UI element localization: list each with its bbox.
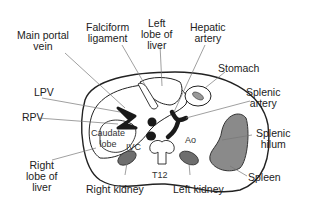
- hepatic-artery-vessel: [148, 118, 157, 127]
- label-ao: Ao: [185, 135, 196, 146]
- label-splenic-artery: Splenic artery: [246, 87, 280, 109]
- label-lpv: LPV: [34, 87, 54, 98]
- label-falciform-ligament: Falciform ligament: [86, 22, 129, 44]
- label-t12: T12: [152, 170, 168, 181]
- label-right-kidney: Right kidney: [86, 184, 144, 195]
- label-caudate-lobe: Caudate lobe: [91, 128, 125, 150]
- label-main-portal-vein: Main portal vein: [17, 30, 69, 52]
- label-right-lobe-of-liver: Right lobe of liver: [26, 160, 58, 193]
- label-hepatic-artery: Hepatic artery: [190, 22, 226, 44]
- label-left-kidney: Left kidney: [173, 184, 224, 195]
- abdominal-cross-section-diagram: Main portal vein Falciform ligament Left…: [0, 0, 312, 207]
- label-left-lobe-of-liver: Left lobe of liver: [141, 18, 173, 51]
- label-rpv: RPV: [22, 112, 44, 123]
- label-spleen: Spleen: [248, 172, 281, 183]
- label-stomach: Stomach: [218, 63, 259, 74]
- ivc-vessel: [146, 132, 156, 141]
- label-splenic-hilum: Splenic hilum: [256, 128, 290, 150]
- label-ivc: IVC: [126, 142, 141, 153]
